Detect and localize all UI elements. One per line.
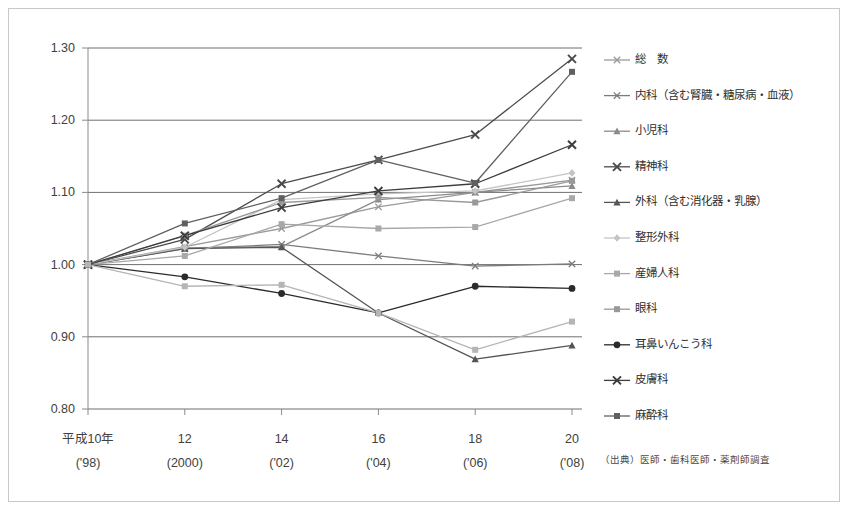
series-marker <box>182 283 188 289</box>
y-tick-label: 1.10 <box>51 185 75 199</box>
series-line <box>88 72 572 265</box>
legend-label: 皮膚科 <box>635 372 669 385</box>
series-marker <box>375 157 381 163</box>
series-marker <box>569 69 575 75</box>
legend-swatch-marker <box>614 306 620 312</box>
x-tick-label-year: 12 <box>178 432 192 446</box>
legend-label: 総 数 <box>635 52 669 65</box>
y-axis-tick-labels: 0.800.901.001.101.201.30 <box>51 41 75 416</box>
legend-label: 眼科 <box>635 301 658 314</box>
x-tick-label-western: (2000) <box>167 456 203 470</box>
series-marker <box>472 283 479 290</box>
legend-label: 小児科 <box>635 123 669 136</box>
line-chart-svg: 0.800.901.001.101.201.30 平成10年1214161820… <box>0 0 850 511</box>
series-marker <box>279 195 285 201</box>
y-tick-label: 1.00 <box>51 258 75 272</box>
series-marker <box>568 55 576 63</box>
x-tick-label-year: 20 <box>565 432 579 446</box>
series-marker <box>569 285 576 292</box>
legend-item[interactable]: 眼科 <box>604 301 658 314</box>
series-marker <box>375 194 381 200</box>
legend-label: 産婦人科 <box>635 266 680 279</box>
series-marker <box>182 253 188 259</box>
legend-group: 総 数内科（含む腎臓・糖尿病・血液）小児科精神科外科（含む消化器・乳腺）整形外科… <box>604 52 800 421</box>
legend-item[interactable]: 産婦人科 <box>604 266 680 279</box>
chart-figure: 0.800.901.001.101.201.30 平成10年1214161820… <box>0 0 850 511</box>
axes-group <box>82 48 572 415</box>
series-marker <box>375 226 381 232</box>
series-marker <box>569 319 575 325</box>
legend-label: 内科（含む腎臓・糖尿病・血液） <box>635 88 800 101</box>
legend-label: 耳鼻いんこう科 <box>635 337 713 350</box>
legend-item[interactable]: 内科（含む腎臓・糖尿病・血液） <box>604 88 800 101</box>
x-tick-label-western: ('08) <box>560 456 585 470</box>
series-marker <box>568 141 576 149</box>
x-tick-label-year: 14 <box>275 432 289 446</box>
y-tick-label: 1.30 <box>51 41 75 55</box>
series-marker <box>85 262 91 268</box>
legend-item[interactable]: 整形外科 <box>604 230 680 243</box>
series-marker <box>472 180 478 186</box>
legend-swatch-marker <box>614 271 620 277</box>
series-marker <box>181 273 188 280</box>
x-tick-label-western: ('04) <box>366 456 391 470</box>
series-marker <box>471 131 479 139</box>
series-marker <box>569 195 575 201</box>
y-tick-label: 0.90 <box>51 330 75 344</box>
x-tick-label-year: 16 <box>371 432 385 446</box>
x-tick-label-year: 18 <box>468 432 482 446</box>
series-line <box>88 244 572 266</box>
series-marker <box>182 220 188 226</box>
series-marker <box>472 347 478 353</box>
series-line <box>88 265 572 313</box>
series-marker <box>569 178 575 184</box>
legend-swatch-marker <box>614 413 620 419</box>
legend-swatch-marker <box>614 234 621 242</box>
x-tick-label-western: ('02) <box>269 456 294 470</box>
legend-swatch-marker <box>614 341 621 348</box>
series-marker <box>569 169 576 177</box>
series-marker <box>278 180 286 188</box>
legend-item[interactable]: 皮膚科 <box>604 372 669 385</box>
series-marker <box>375 310 381 316</box>
x-tick-label-western: ('06) <box>463 456 488 470</box>
x-tick-label-western: ('98) <box>76 456 101 470</box>
x-axis-tick-labels: 平成10年1214161820('98)(2000)('02)('04)('06… <box>62 432 585 470</box>
series-marker <box>278 290 285 297</box>
legend-item[interactable]: 外科（含む消化器・乳腺） <box>604 194 767 207</box>
series-marker <box>568 342 575 349</box>
legend-item[interactable]: 麻酔科 <box>604 408 669 421</box>
data-series-group <box>88 59 572 359</box>
source-note: （出典）医師・歯科医師・薬剤師調査 <box>600 454 770 465</box>
y-tick-label: 0.80 <box>51 402 75 416</box>
series-line <box>88 198 572 264</box>
legend-label: 外科（含む消化器・乳腺） <box>635 194 767 207</box>
series-line <box>88 145 572 265</box>
series-marker <box>279 282 285 288</box>
legend-label: 麻酔科 <box>635 408 669 421</box>
y-tick-label: 1.20 <box>51 113 75 127</box>
series-marker <box>472 224 478 230</box>
series-marker <box>279 221 285 227</box>
series-marker <box>472 200 478 206</box>
x-tick-label-year: 平成10年 <box>62 432 115 446</box>
legend-item[interactable]: 小児科 <box>604 123 669 136</box>
legend-item[interactable]: 総 数 <box>604 52 669 65</box>
legend-label: 精神科 <box>635 159 669 172</box>
legend-label: 整形外科 <box>635 230 680 243</box>
legend-item[interactable]: 耳鼻いんこう科 <box>604 337 713 350</box>
legend-item[interactable]: 精神科 <box>604 159 669 172</box>
data-markers-group <box>84 55 576 362</box>
